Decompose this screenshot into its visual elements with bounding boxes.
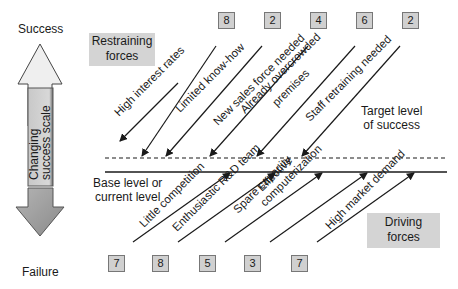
target-level-line1: Target level	[361, 104, 422, 118]
scale-bar-label-2: success scale	[39, 105, 53, 180]
restraining-score-1: 8	[218, 12, 235, 29]
target-level-line2: of success	[361, 118, 422, 132]
restraining-score-2: 2	[264, 12, 281, 29]
driving-title-2: forces	[367, 230, 440, 245]
restraining-score-5: 2	[402, 12, 419, 29]
down-arrow-icon	[16, 188, 64, 236]
driving-forces-box: Driving forces	[367, 213, 440, 248]
driving-score-1: 7	[108, 255, 125, 272]
restraining-forces-box: Restraining forces	[89, 33, 155, 66]
base-level-line1: Base level or	[93, 176, 162, 190]
restraining-title-2: forces	[89, 49, 155, 64]
driving-score-2: 8	[152, 255, 169, 272]
driving-score-4: 3	[244, 255, 261, 272]
driving-score-5: 7	[291, 255, 308, 272]
base-level-label: Base level or current level	[93, 176, 162, 204]
restraining-score-3: 4	[310, 12, 327, 29]
driving-title-1: Driving	[367, 215, 440, 230]
restraining-title-1: Restraining	[89, 34, 155, 49]
driving-score-3: 5	[199, 255, 216, 272]
target-level-label: Target level of success	[361, 104, 422, 132]
restraining-score-4: 6	[356, 12, 373, 29]
base-level-line2: current level	[93, 190, 162, 204]
